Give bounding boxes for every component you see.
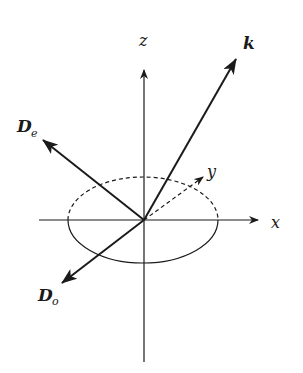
svg-text:D: D [37, 285, 53, 305]
do-vector-label: D o [37, 285, 59, 308]
optics-diagram: z x y k D e D o [0, 0, 303, 373]
svg-text:e: e [31, 127, 38, 140]
x-axis-label: x [271, 213, 280, 232]
ellipse-back-dashed [68, 177, 218, 220]
ellipse-front-solid [68, 220, 218, 263]
svg-text:D: D [16, 116, 32, 136]
k-vector-label: k [243, 33, 255, 53]
y-axis-label: y [206, 162, 217, 181]
z-axis-label: z [138, 31, 148, 50]
de-vector [43, 140, 144, 220]
k-vector [144, 59, 236, 220]
svg-text:o: o [52, 295, 59, 308]
do-vector [62, 220, 144, 283]
y-axis [144, 177, 203, 220]
de-vector-label: D e [16, 116, 38, 140]
